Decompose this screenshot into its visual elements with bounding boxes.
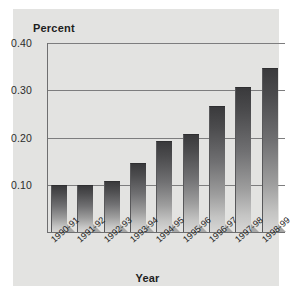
y-tick-label-text: 0.30	[11, 84, 45, 96]
y-tick-label: 0.40	[13, 37, 45, 49]
bar-group	[259, 43, 285, 232]
bar-group	[48, 43, 74, 232]
y-axis-title: Percent	[33, 22, 75, 34]
y-tick-label-text: 0.10	[11, 179, 45, 191]
bar[interactable]	[156, 141, 172, 232]
bar-group	[74, 43, 100, 232]
chart-figure: Percent 0.100.200.300.40 1990-911991-921…	[0, 0, 295, 298]
x-axis-title: Year	[0, 272, 295, 284]
y-tick-label-text: 0.40	[11, 37, 45, 49]
y-tick-label: 0.10	[13, 179, 45, 191]
y-tick-label-text: 0.20	[11, 132, 45, 144]
bar-group	[153, 43, 179, 232]
bar-group	[101, 43, 127, 232]
bar[interactable]	[235, 87, 251, 232]
chart-plot-panel: Percent 0.100.200.300.40 1990-911991-921…	[13, 9, 279, 286]
bar-group	[127, 43, 153, 232]
y-tick-label: 0.30	[13, 84, 45, 96]
bar[interactable]	[262, 68, 278, 232]
bar[interactable]	[183, 134, 199, 232]
y-tick-label: 0.20	[13, 132, 45, 144]
bar-group	[180, 43, 206, 232]
bar-group	[206, 43, 232, 232]
bar[interactable]	[209, 106, 225, 232]
bar-group	[232, 43, 258, 232]
bar-plot-area	[48, 43, 285, 232]
